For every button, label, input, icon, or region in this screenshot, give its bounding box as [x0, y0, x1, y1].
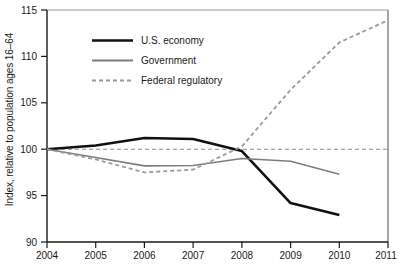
- chart-legend: U.S. economy Government Federal regulato…: [92, 35, 222, 86]
- plot-frame: [47, 10, 388, 242]
- line-chart-plot: 115 110 105 100 95 90 2004 2005 2006 200…: [0, 0, 405, 265]
- x-tick-label-2011: 2011: [375, 250, 397, 261]
- legend-label-us-economy: U.S. economy: [141, 35, 204, 46]
- x-tick-label-2004: 2004: [36, 250, 59, 261]
- y-tick-label-105: 105: [20, 97, 37, 108]
- chart-container: Index, relative to population ages 16–64…: [0, 0, 405, 265]
- legend-label-federal-regulatory: Federal regulatory: [141, 75, 222, 86]
- y-tick-label-110: 110: [21, 51, 37, 62]
- y-tick-label-90: 90: [26, 237, 38, 248]
- x-tick-label-2008: 2008: [231, 250, 254, 261]
- x-axis-ticks: [47, 242, 388, 248]
- y-tick-label-100: 100: [20, 144, 37, 155]
- legend-label-government: Government: [141, 55, 196, 66]
- x-tick-label-2009: 2009: [279, 250, 302, 261]
- x-tick-label-2006: 2006: [133, 250, 156, 261]
- data-series-group: [47, 20, 388, 215]
- y-tick-label-95: 95: [26, 190, 38, 201]
- y-axis-ticks: [41, 10, 47, 242]
- x-tick-label-2005: 2005: [85, 250, 108, 261]
- x-tick-label-2010: 2010: [328, 250, 351, 261]
- y-tick-label-115: 115: [21, 5, 37, 16]
- x-tick-label-2007: 2007: [182, 250, 205, 261]
